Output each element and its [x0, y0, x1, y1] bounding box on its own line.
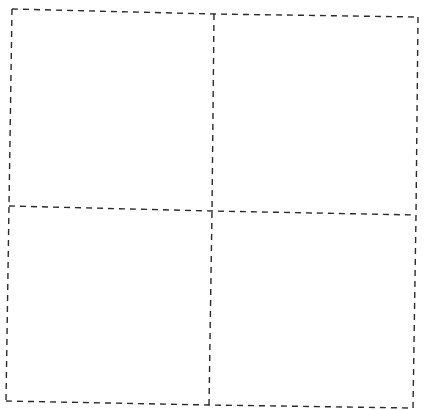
cell-bottom-right — [209, 211, 416, 408]
cell-top-left — [9, 9, 214, 211]
cell-bottom-left — [6, 206, 212, 405]
quadrant-grid-diagram — [0, 0, 427, 410]
cell-top-right — [212, 14, 418, 215]
